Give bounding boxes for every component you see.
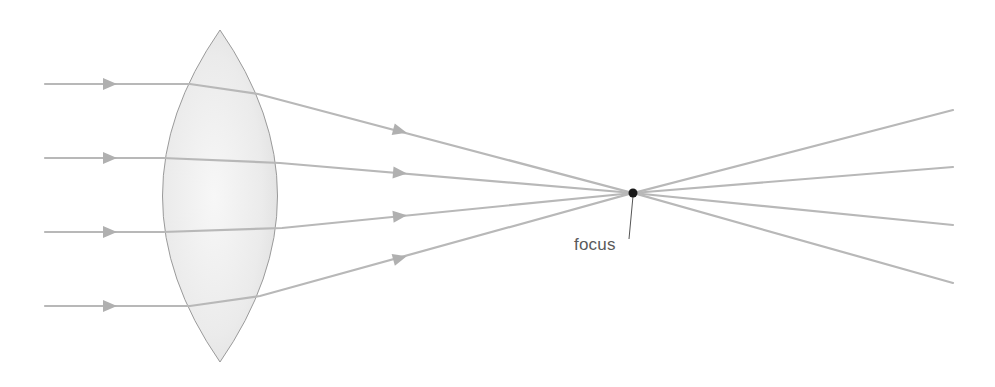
arrow-icon bbox=[103, 152, 117, 164]
arrowheads-refracted bbox=[392, 123, 409, 265]
arrow-icon bbox=[392, 250, 409, 265]
lens-ray-diagram bbox=[0, 0, 995, 387]
arrow-icon bbox=[103, 226, 117, 238]
arrow-icon bbox=[392, 209, 407, 222]
focus-label: focus bbox=[574, 235, 616, 255]
arrowheads-incoming bbox=[103, 78, 117, 312]
arrow-icon bbox=[393, 166, 408, 179]
focus-point bbox=[629, 189, 638, 198]
arrow-icon bbox=[103, 300, 117, 312]
convex-lens bbox=[163, 30, 278, 362]
arrow-icon bbox=[103, 78, 117, 90]
focus-leader-line bbox=[629, 196, 633, 239]
arrow-icon bbox=[392, 123, 409, 138]
